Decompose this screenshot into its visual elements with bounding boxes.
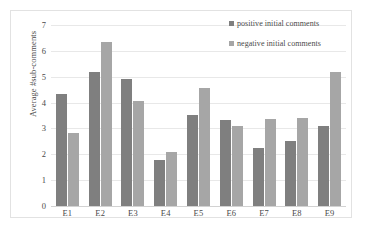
bar-group [313, 25, 346, 206]
y-tick-label: 2 [42, 149, 46, 159]
chart-container: Average #sub-comments 76543210 E1E2E3E4E… [10, 10, 352, 218]
x-tick-label-e4: E4 [149, 208, 182, 218]
x-tick-label-e6: E6 [215, 208, 248, 218]
bar-group [280, 25, 313, 206]
bar-e2-positive [89, 72, 100, 206]
bar-e9-positive [318, 126, 329, 206]
bar-e8-negative [297, 118, 308, 206]
bar-e8-positive [285, 141, 296, 206]
x-tick-label-e5: E5 [182, 208, 215, 218]
y-tick-label: 7 [42, 20, 46, 30]
legend-item-negative[interactable]: negative initial comments [229, 39, 321, 48]
bar-e3-negative [133, 101, 144, 206]
bar-group [149, 25, 182, 206]
legend-item-positive[interactable]: positive initial comments [229, 19, 321, 28]
bar-group [215, 25, 248, 206]
y-tick-label: 6 [42, 46, 46, 56]
bar-e2-negative [101, 42, 112, 206]
bar-e7-negative [265, 119, 276, 206]
bar-group [84, 25, 117, 206]
axis-baseline: 0 [51, 206, 346, 207]
bar-e5-negative [199, 88, 210, 206]
bar-e4-positive [154, 160, 165, 206]
x-tick-label-e3: E3 [117, 208, 150, 218]
x-axis-labels: E1E2E3E4E5E6E7E8E9 [51, 208, 346, 218]
bar-e9-negative [330, 72, 341, 206]
legend-swatch-positive-icon [229, 21, 234, 26]
plot-area: 76543210 [51, 25, 346, 206]
legend-label: positive initial comments [237, 19, 319, 28]
bar-e7-positive [253, 148, 264, 206]
x-tick-label-e7: E7 [248, 208, 281, 218]
chart-legend: positive initial commentsnegative initia… [229, 19, 321, 48]
y-tick-label: 4 [42, 98, 46, 108]
y-tick-label: 1 [42, 175, 46, 185]
y-tick-label: 0 [42, 201, 46, 211]
bars-layer [51, 25, 346, 206]
y-tick-label: 3 [42, 123, 46, 133]
bar-e1-positive [56, 94, 67, 206]
legend-swatch-negative-icon [229, 41, 234, 46]
bar-e3-positive [121, 79, 132, 206]
legend-label: negative initial comments [237, 39, 321, 48]
bar-e4-negative [166, 152, 177, 206]
x-tick-label-e8: E8 [280, 208, 313, 218]
bar-e5-positive [187, 115, 198, 206]
y-tick-label: 5 [42, 72, 46, 82]
bar-group [51, 25, 84, 206]
bar-e6-positive [220, 120, 231, 206]
x-tick-label-e1: E1 [51, 208, 84, 218]
bar-e6-negative [232, 126, 243, 206]
x-tick-label-e2: E2 [84, 208, 117, 218]
bar-e1-negative [68, 133, 79, 206]
bar-group [248, 25, 281, 206]
x-tick-label-e9: E9 [313, 208, 346, 218]
bar-group [117, 25, 150, 206]
bar-group [182, 25, 215, 206]
y-axis-title: Average #sub-comments [28, 14, 38, 134]
